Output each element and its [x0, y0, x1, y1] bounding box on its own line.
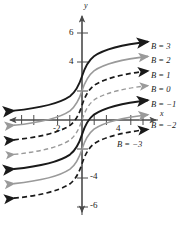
family-of-curves-figure — [0, 0, 180, 226]
x-tick-label-neg2: -2 — [53, 124, 61, 133]
series-label-b3: B = 3 — [151, 42, 170, 51]
series-label-b0: B = 0 — [151, 85, 170, 94]
y-tick-label-4: 4 — [69, 57, 74, 66]
x-tick-label-4: 4 — [116, 124, 121, 133]
series-label-b1: B = 1 — [151, 71, 170, 80]
series-label-b2: B = 2 — [151, 56, 170, 65]
y-tick-label-neg4: -4 — [90, 172, 98, 181]
curve-b3 — [14, 42, 148, 111]
series-label-bm1: B = −1 — [151, 100, 176, 109]
y-axis-label: y — [84, 2, 88, 10]
y-tick-label-6: 6 — [69, 28, 74, 37]
series-label-bm2: B = −2 — [151, 121, 176, 130]
x-axis-label: x — [160, 110, 164, 118]
series-label-bm3: B = −3 — [117, 140, 142, 149]
y-tick-label-neg6: -6 — [90, 201, 98, 210]
